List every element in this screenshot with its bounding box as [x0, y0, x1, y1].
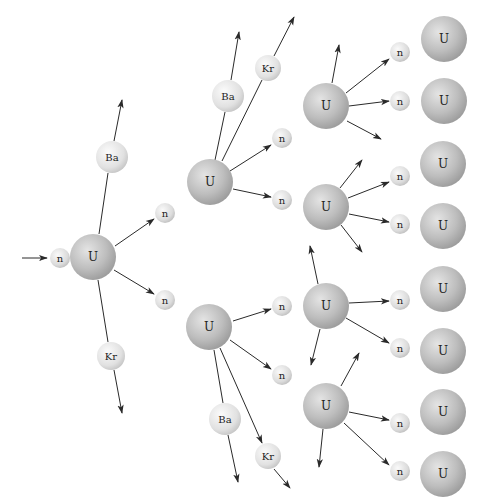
trajectory-arrow — [274, 469, 290, 488]
neutron: n — [390, 338, 410, 358]
trajectory-arrow — [228, 435, 238, 482]
trajectory-arrow — [115, 219, 154, 246]
trajectory-arrow — [114, 100, 122, 141]
uranium-nucleus: U — [420, 328, 466, 374]
neutron-label: n — [397, 96, 404, 107]
trajectory-arrow — [332, 45, 339, 83]
trajectory-arrow — [311, 329, 320, 365]
trajectory-arrow — [348, 182, 389, 198]
neutron-label: n — [162, 208, 169, 219]
uranium-nucleus-label: U — [438, 157, 448, 171]
krypton-fragment: Kr — [97, 342, 125, 370]
neutron: n — [155, 203, 175, 223]
barium-fragment: Ba — [96, 141, 128, 173]
trajectory-arrow — [346, 318, 389, 343]
trajectory-arrow — [274, 17, 294, 56]
neutron-label: n — [397, 343, 404, 354]
uranium-nucleus-label: U — [439, 94, 449, 108]
neutron-label: n — [279, 195, 286, 206]
uranium-nucleus-label: U — [321, 399, 331, 413]
chain-reaction-diagram: nUBaKrnnUBaKrnnUBaKrnnUUUUnnnnnnnnUUUUUU… — [0, 0, 484, 500]
uranium-nucleus: U — [303, 83, 349, 129]
uranium-nucleus: U — [420, 389, 466, 435]
neutron-label: n — [162, 295, 169, 306]
uranium-nucleus-label: U — [205, 175, 215, 189]
trajectory-arrow — [114, 370, 122, 413]
trajectory-arrow — [344, 423, 389, 465]
uranium-nucleus: U — [420, 203, 466, 249]
krypton-fragment-label: Kr — [262, 451, 274, 462]
neutron: n — [390, 413, 410, 433]
neutron: n — [155, 290, 175, 310]
krypton-fragment: Kr — [255, 55, 281, 81]
trajectory-arrow — [346, 59, 389, 93]
neutron-label: n — [397, 171, 404, 182]
uranium-nucleus: U — [420, 266, 466, 312]
trajectory-arrow — [233, 189, 271, 197]
trajectory-arrow — [230, 340, 271, 369]
neutron-label: n — [397, 295, 404, 306]
barium-fragment: Ba — [209, 403, 241, 435]
uranium-nucleus-label: U — [321, 99, 331, 113]
neutron-label: n — [279, 301, 286, 312]
uranium-nucleus: U — [421, 16, 467, 62]
neutron: n — [390, 461, 410, 481]
uranium-nucleus-label: U — [438, 405, 448, 419]
uranium-nucleus-label: U — [88, 250, 98, 264]
krypton-fragment: Kr — [255, 443, 281, 469]
uranium-nucleus: U — [420, 141, 466, 187]
uranium-nucleus-label: U — [438, 467, 448, 481]
krypton-fragment-label: Kr — [105, 351, 117, 362]
trajectory-arrow — [340, 160, 362, 188]
trajectory-arrow — [349, 101, 389, 106]
uranium-nucleus-label: U — [439, 32, 449, 46]
neutron: n — [272, 365, 292, 385]
neutron: n — [390, 91, 410, 111]
trajectory-line — [214, 350, 223, 403]
uranium-nucleus-label: U — [438, 219, 448, 233]
uranium-nucleus-label: U — [438, 344, 448, 358]
uranium-nucleus-label: U — [204, 320, 214, 334]
neutron-label: n — [397, 466, 404, 477]
trajectory-arrow — [310, 246, 318, 284]
neutron: n — [390, 42, 410, 62]
uranium-nucleus: U — [303, 283, 349, 329]
neutron: n — [50, 248, 70, 268]
trajectory-arrow — [114, 270, 154, 294]
uranium-nucleus: U — [186, 304, 232, 350]
trajectory-arrow — [231, 32, 239, 80]
uranium-nucleus-label: U — [321, 299, 331, 313]
neutron: n — [390, 290, 410, 310]
barium-fragment-label: Ba — [218, 414, 231, 425]
neutron-label: n — [279, 370, 286, 381]
trajectory-arrow — [349, 412, 389, 420]
neutron-label: n — [279, 133, 286, 144]
trajectory-arrow — [341, 353, 359, 386]
uranium-nucleus-label: U — [321, 200, 331, 214]
uranium-nucleus: U — [303, 184, 349, 230]
trajectory-line — [215, 112, 225, 160]
trajectory-arrow — [230, 145, 271, 171]
trajectory-arrow — [349, 214, 389, 222]
neutron: n — [272, 190, 292, 210]
neutron-label: n — [397, 219, 404, 230]
krypton-fragment-label: Kr — [262, 63, 274, 74]
barium-fragment: Ba — [212, 80, 244, 112]
trajectory-arrow — [349, 301, 389, 303]
neutron: n — [390, 214, 410, 234]
uranium-nucleus: U — [420, 451, 466, 497]
neutron: n — [272, 296, 292, 316]
uranium-nucleus: U — [70, 234, 116, 280]
uranium-nucleus: U — [187, 159, 233, 205]
neutron: n — [272, 128, 292, 148]
uranium-nucleus: U — [303, 383, 349, 429]
trajectory-arrow — [319, 429, 323, 467]
barium-fragment-label: Ba — [221, 91, 234, 102]
trajectory-arrow — [233, 309, 271, 321]
barium-fragment-label: Ba — [105, 152, 118, 163]
uranium-nucleus: U — [421, 78, 467, 124]
uranium-nucleus-label: U — [438, 282, 448, 296]
neutron: n — [390, 166, 410, 186]
trajectory-line — [98, 280, 108, 342]
neutron-label: n — [57, 253, 64, 264]
